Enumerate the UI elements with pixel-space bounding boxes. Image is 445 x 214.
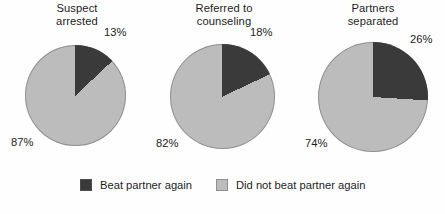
- pie-title-referred-to-counseling: Referred to counseling: [144, 2, 304, 27]
- legend-item-beat-partner-again: Beat partner again: [80, 179, 192, 191]
- pie-chart-figure: Suspect arrested 13% 87% Referred to cou…: [0, 0, 445, 214]
- pie-slice-label-dark-1: 13%: [104, 26, 126, 38]
- pie-slice-label-light-2: 82%: [156, 137, 178, 149]
- legend-swatch-dark-icon: [80, 179, 92, 191]
- pie-slice-label-light-3: 74%: [305, 137, 327, 149]
- pie-slice-beat-partner-again-3: [318, 42, 428, 152]
- pie-slice-label-dark-3: 26%: [410, 33, 432, 45]
- legend-item-did-not-beat-partner-again: Did not beat partner again: [216, 179, 365, 191]
- pie-title-partners-separated: Partners separated: [293, 2, 445, 27]
- pie-slice-label-dark-2: 18%: [250, 26, 272, 38]
- chart-legend: Beat partner again Did not beat partner …: [0, 177, 445, 197]
- legend-label-beat-partner-again: Beat partner again: [100, 179, 192, 191]
- pie-slice-beat-partner-again-2: [170, 44, 275, 149]
- pie-title-suspect-arrested: Suspect arrested: [0, 2, 157, 27]
- legend-label-did-not-beat-partner-again: Did not beat partner again: [236, 179, 365, 191]
- pie-slice-label-light-1: 87%: [11, 136, 33, 148]
- pie-slice-beat-partner-again-1: [25, 45, 126, 146]
- legend-swatch-light-icon: [216, 179, 228, 191]
